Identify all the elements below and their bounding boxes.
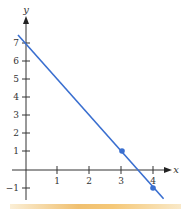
data-line: [18, 35, 164, 199]
data-point: [119, 148, 125, 154]
y-axis-title: y: [22, 4, 29, 15]
y-tick-label: 6: [13, 56, 19, 66]
x-tick-label: 3: [118, 176, 124, 186]
x-axis-title: x: [173, 164, 179, 175]
y-tick-label: 4: [13, 92, 19, 102]
y-axis-arrow-icon: [23, 16, 29, 24]
axes: [12, 16, 172, 200]
y-tick-label: 2: [13, 128, 19, 138]
x-tick-label: 2: [86, 176, 92, 186]
x-ticks: 1 2 3 4: [54, 166, 156, 186]
decorative-accent-bar: [10, 204, 181, 209]
data-point: [150, 185, 156, 191]
y-tick-label: 1: [13, 146, 19, 156]
x-tick-label: 1: [54, 176, 60, 186]
y-tick-label: 7: [13, 38, 19, 48]
x-axis-arrow-icon: [164, 167, 172, 173]
chart-root: 1 2 3 4 7 6 5 4 3 2 1 −1 y x: [0, 0, 181, 211]
y-tick-label: 5: [13, 74, 19, 84]
y-tick-label: 3: [13, 110, 19, 120]
y-tick-label: −1: [6, 183, 19, 193]
line-chart: 1 2 3 4 7 6 5 4 3 2 1 −1 y x: [0, 0, 181, 211]
